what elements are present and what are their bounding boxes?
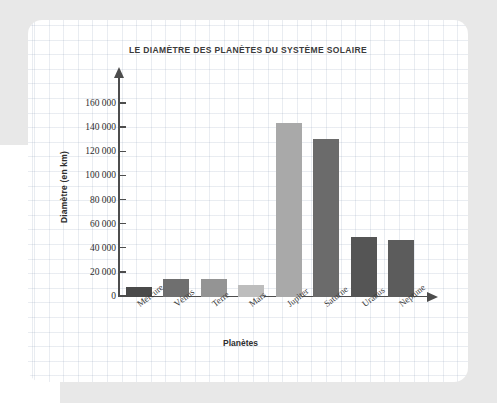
y-axis-tick (120, 126, 126, 127)
y-axis-title: Diamètre (en km) (59, 127, 69, 247)
y-axis-tick (120, 151, 126, 152)
y-axis-tick (120, 247, 126, 248)
y-axis-tick-label: 160 000 (85, 98, 116, 108)
y-axis-tick (120, 271, 126, 272)
y-axis-tick-label: 80 000 (90, 195, 116, 205)
y-axis-tick-label: 120 000 (85, 146, 116, 156)
bar-jupiter (276, 123, 302, 297)
y-axis-tick-label: 100 000 (85, 170, 116, 180)
y-axis-tick-label: 140 000 (85, 122, 116, 132)
y-axis-tick (120, 175, 126, 176)
y-axis-tick (120, 199, 126, 200)
y-axis-tick-label: 60 000 (90, 219, 116, 229)
bar-uranus (351, 237, 377, 297)
bar-neptune (388, 240, 414, 297)
y-axis-tick (120, 223, 126, 224)
chart-card: LE DIAMÈTRE DES PLANÈTES DU SYSTÈME SOLA… (28, 20, 468, 382)
y-axis-tick-label: 0 (111, 291, 116, 301)
x-axis-title: Planètes (223, 338, 258, 348)
bar-saturne (313, 139, 339, 297)
y-axis-tick (120, 295, 126, 296)
x-axis-arrow-icon (427, 292, 438, 302)
y-axis-tick (120, 102, 126, 103)
y-axis-line (118, 76, 120, 297)
plot-area: 020 00040 00060 00080 000100 000120 0001… (28, 20, 468, 382)
y-axis-tick-label: 40 000 (90, 243, 116, 253)
y-axis-tick-label: 20 000 (90, 267, 116, 277)
y-axis-arrow-icon (114, 67, 124, 78)
